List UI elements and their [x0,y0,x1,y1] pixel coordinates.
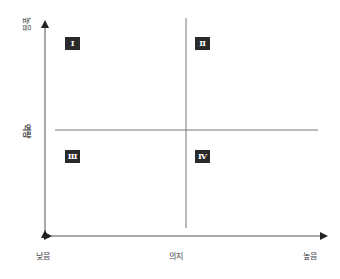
y-axis-high-label: 높음 [22,17,33,31]
y-axis-label: 역량 [22,124,33,138]
x-axis-low-label: 낮음 [36,250,50,261]
quadrant-4-badge: Ⅳ [195,150,210,163]
quadrant-3-badge: Ⅲ [65,150,80,163]
quadrant-2-badge: Ⅱ [195,37,210,50]
x-axis-label: 의지 [169,250,183,261]
matrix-lines [0,0,340,279]
x-axis-high-label: 높음 [303,250,317,261]
quadrant-1-badge: Ⅰ [65,37,80,50]
